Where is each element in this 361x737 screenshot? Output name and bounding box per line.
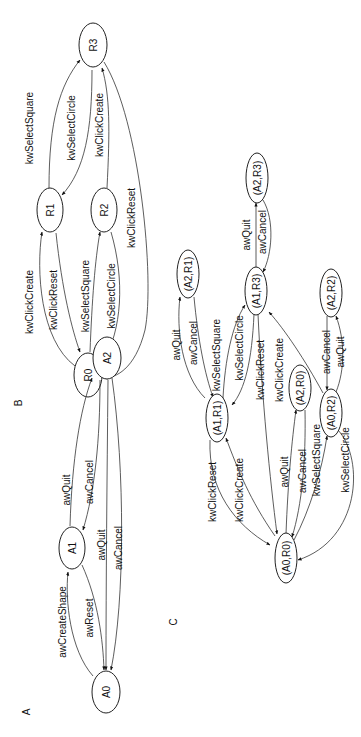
edge-label: kwSelectSquare xyxy=(211,318,222,391)
node-a2-r2: (A2,R2) xyxy=(320,269,342,317)
node-r3: R3 xyxy=(79,23,107,67)
edge-label: kwClickCreate xyxy=(274,338,285,402)
node-a2-r3: (A2,R3) xyxy=(246,153,268,203)
edge-r1-r0 xyxy=(56,233,80,352)
node-r1: R1 xyxy=(37,188,63,232)
edge-label: awQuit xyxy=(241,219,252,250)
edge-label: kwSelectCircle xyxy=(106,263,117,329)
edge-label: kwClickCreate xyxy=(94,93,105,157)
edge-label: awCancel xyxy=(297,449,308,493)
node-label: R1 xyxy=(45,203,56,216)
panel-label-b: B xyxy=(13,399,24,406)
edge-label: kwSelectCircle xyxy=(340,427,351,493)
diagram-b: kwSelectSquare kwSelectCircle kwClickCre… xyxy=(24,23,148,397)
edge-r0-r2 xyxy=(90,232,100,352)
edge-label: awQuit xyxy=(335,336,346,367)
edge-a2-a0-cancel xyxy=(111,378,122,670)
node-a0-r2: (A0,R2) xyxy=(320,389,342,437)
edge-label: awCancel xyxy=(113,526,124,570)
node-label: R3 xyxy=(88,38,99,51)
edge-label: awCancel xyxy=(257,210,268,254)
node-a1-r3: (A1,R3) xyxy=(245,267,267,315)
edge-label: awReset xyxy=(84,598,95,637)
edge-label: awCancel xyxy=(321,330,332,374)
node-label: (A0,R0) xyxy=(281,541,292,575)
panel-label-c: C xyxy=(168,618,179,625)
edge-label: kwSelectSquare xyxy=(24,91,35,164)
edge-label: kwClickCreate xyxy=(24,270,35,334)
node-label: (A2,R1) xyxy=(183,257,194,291)
node-a0: A0 xyxy=(92,671,120,713)
node-a2-r1: (A2,R1) xyxy=(177,250,199,298)
state-diagram-figure: B A C kwSelectSquare kwSelectCircle kwCl… xyxy=(0,0,361,737)
node-label: A0 xyxy=(101,685,112,698)
node-a0-r0: (A0,R0) xyxy=(275,533,297,583)
edge-label: kwSelectCircle xyxy=(234,315,245,381)
node-a1-r1: (A1,R1) xyxy=(206,394,228,442)
edge-label: kwSelectCircle xyxy=(66,95,77,161)
edge-a2-a1 xyxy=(83,380,100,530)
node-a2-r0: (A2,R0) xyxy=(289,365,311,411)
node-label: R2 xyxy=(99,203,110,216)
node-a2: A2 xyxy=(93,337,121,379)
node-label: (A1,R1) xyxy=(212,401,223,435)
panel-label-a: A xyxy=(21,708,32,715)
node-label: A2 xyxy=(102,351,113,364)
edge-label: awCreateShape xyxy=(57,586,68,658)
edge-label: awCancel xyxy=(188,321,199,365)
edge-label: awQuit xyxy=(171,329,182,360)
edge-label: awCancel xyxy=(84,460,95,504)
edge-label: kwClickReset xyxy=(255,340,266,400)
node-label: (A2,R2) xyxy=(326,276,337,310)
edge-label: kwClickReset xyxy=(207,462,218,522)
node-label: (A1,R3) xyxy=(251,274,262,308)
diagram-c: awQuit awCancel awQuit awCancel kwSelect… xyxy=(171,153,354,583)
edge-a2-a0-quit xyxy=(106,380,108,670)
edge-label: awQuit xyxy=(61,474,72,505)
edge-label: kwClickCreate xyxy=(234,458,245,522)
edge-label: awQuit xyxy=(279,456,290,487)
node-label: (A0,R2) xyxy=(326,396,337,430)
node-r2: R2 xyxy=(91,188,117,232)
node-label: (A2,R3) xyxy=(252,161,263,195)
edge-label: kwSelectSquare xyxy=(311,423,322,496)
node-label: (A2,R0) xyxy=(295,371,306,405)
edge-label: kwSelectSquare xyxy=(80,259,91,332)
node-a1: A1 xyxy=(59,527,85,569)
node-label: A1 xyxy=(67,541,78,554)
edge-label: kwClickReset xyxy=(126,188,137,248)
edge-label: awQuit xyxy=(96,529,107,560)
node-label: R0 xyxy=(83,368,94,381)
edge-label: kwClickReset xyxy=(48,270,59,330)
